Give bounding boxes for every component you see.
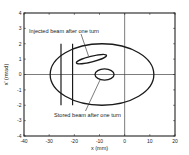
phase-space-chart: -40-30-20-1001020-4-3-2-101234 x (mm) x'… (0, 0, 189, 155)
injected-beam-annotation: Injected beam after one turn (29, 28, 99, 34)
y-tick-label: -1 (17, 87, 22, 93)
y-tick-label: -3 (17, 117, 22, 123)
y-tick-label: -2 (17, 102, 22, 108)
injected-beam-after-one-turn-ellipse (76, 53, 107, 66)
y-tick-label: 4 (19, 10, 22, 16)
x-tick-label: 10 (147, 138, 153, 144)
y-tick-label: 1 (19, 56, 22, 62)
y-tick-label: -4 (17, 133, 22, 139)
x-tick-label: -10 (96, 138, 103, 144)
y-tick-label: 3 (19, 25, 22, 31)
y-axis-label: x' (mrad) (3, 64, 9, 86)
x-axis-label: x (mm) (91, 145, 108, 151)
stored-leader-line (86, 80, 101, 111)
y-tick-label: 0 (19, 71, 22, 77)
y-tick-label: 2 (19, 41, 22, 47)
x-tick-label: 0 (123, 138, 126, 144)
x-tick-label: -20 (71, 138, 78, 144)
stored-beam-annotation: Stored beam after one turn (54, 112, 121, 118)
x-tick-label: -30 (46, 138, 53, 144)
x-tick-label: 20 (172, 138, 178, 144)
